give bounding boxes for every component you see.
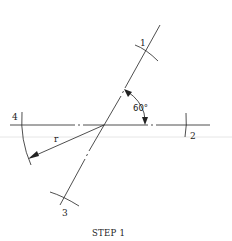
arc-point-1 (135, 45, 158, 61)
radius-line (34, 125, 104, 156)
point-label-3: 3 (62, 208, 68, 218)
angle-arrowhead-bottom-icon (142, 117, 148, 125)
point-label-2: 2 (190, 131, 196, 141)
arc-point-4 (22, 112, 31, 165)
angle-arrowhead-top-icon (124, 89, 132, 97)
arc-point-3 (50, 192, 79, 206)
radius-label: r (54, 134, 59, 144)
construction-diagram: 1 2 3 4 60° r STEP 1 (0, 0, 232, 241)
inclined-centerline (60, 25, 160, 205)
step-caption: STEP 1 (92, 228, 125, 238)
angle-label: 60° (133, 103, 148, 113)
radius-arrowhead-icon (28, 151, 39, 159)
point-label-1: 1 (140, 38, 146, 48)
point-label-4: 4 (12, 112, 18, 122)
